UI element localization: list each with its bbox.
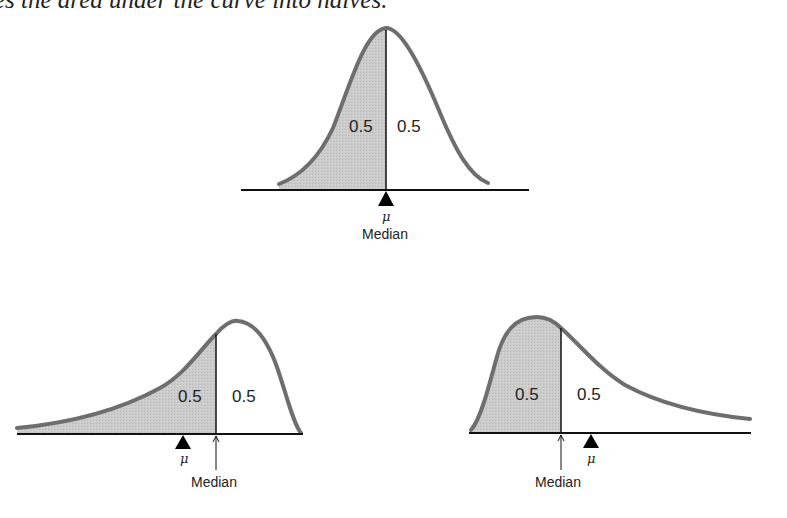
- mean-symbol: μ: [180, 451, 188, 466]
- mean-symbol: μ: [382, 209, 390, 224]
- left-half-shade: [279, 28, 386, 190]
- mean-symbol: μ: [587, 451, 595, 466]
- right-area-label: 0.5: [577, 385, 601, 404]
- symmetric-distribution: 0.5 0.5 μ Median: [241, 28, 529, 242]
- mean-marker-icon: [583, 434, 599, 448]
- mean-marker-icon: [175, 435, 191, 449]
- left-area-label: 0.5: [515, 385, 539, 404]
- left-half-shade: [471, 317, 561, 433]
- left-area-label: 0.5: [178, 387, 202, 406]
- median-label: Median: [191, 474, 237, 490]
- left-skewed-distribution: 0.5 0.5 μ Median: [17, 321, 303, 490]
- right-area-label: 0.5: [232, 387, 256, 406]
- median-label: Median: [535, 474, 581, 490]
- right-skewed-distribution: 0.5 0.5 μ Median: [469, 317, 751, 490]
- left-area-label: 0.5: [349, 117, 373, 136]
- median-label: Median: [362, 226, 408, 242]
- right-area-label: 0.5: [397, 117, 421, 136]
- left-half-shade: [17, 334, 216, 434]
- mean-marker-icon: [378, 191, 394, 206]
